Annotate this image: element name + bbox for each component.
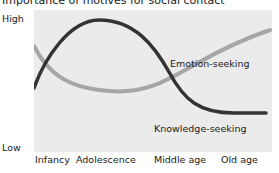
y-axis-low-label: Low (2, 142, 21, 153)
chart-title: Importance of motives for social contact (2, 0, 225, 7)
x-tick-middle-age: Middle age (154, 154, 206, 165)
emotion-seeking-label: Emotion-seeking (170, 58, 250, 69)
x-tick-infancy: Infancy (35, 154, 70, 165)
y-axis-high-label: High (2, 13, 24, 24)
plot-area: Emotion-seeking Knowledge-seeking (34, 10, 272, 152)
knowledge-seeking-label: Knowledge-seeking (154, 123, 246, 134)
x-tick-old-age: Old age (221, 154, 258, 165)
x-tick-adolescence: Adolescence (76, 154, 136, 165)
